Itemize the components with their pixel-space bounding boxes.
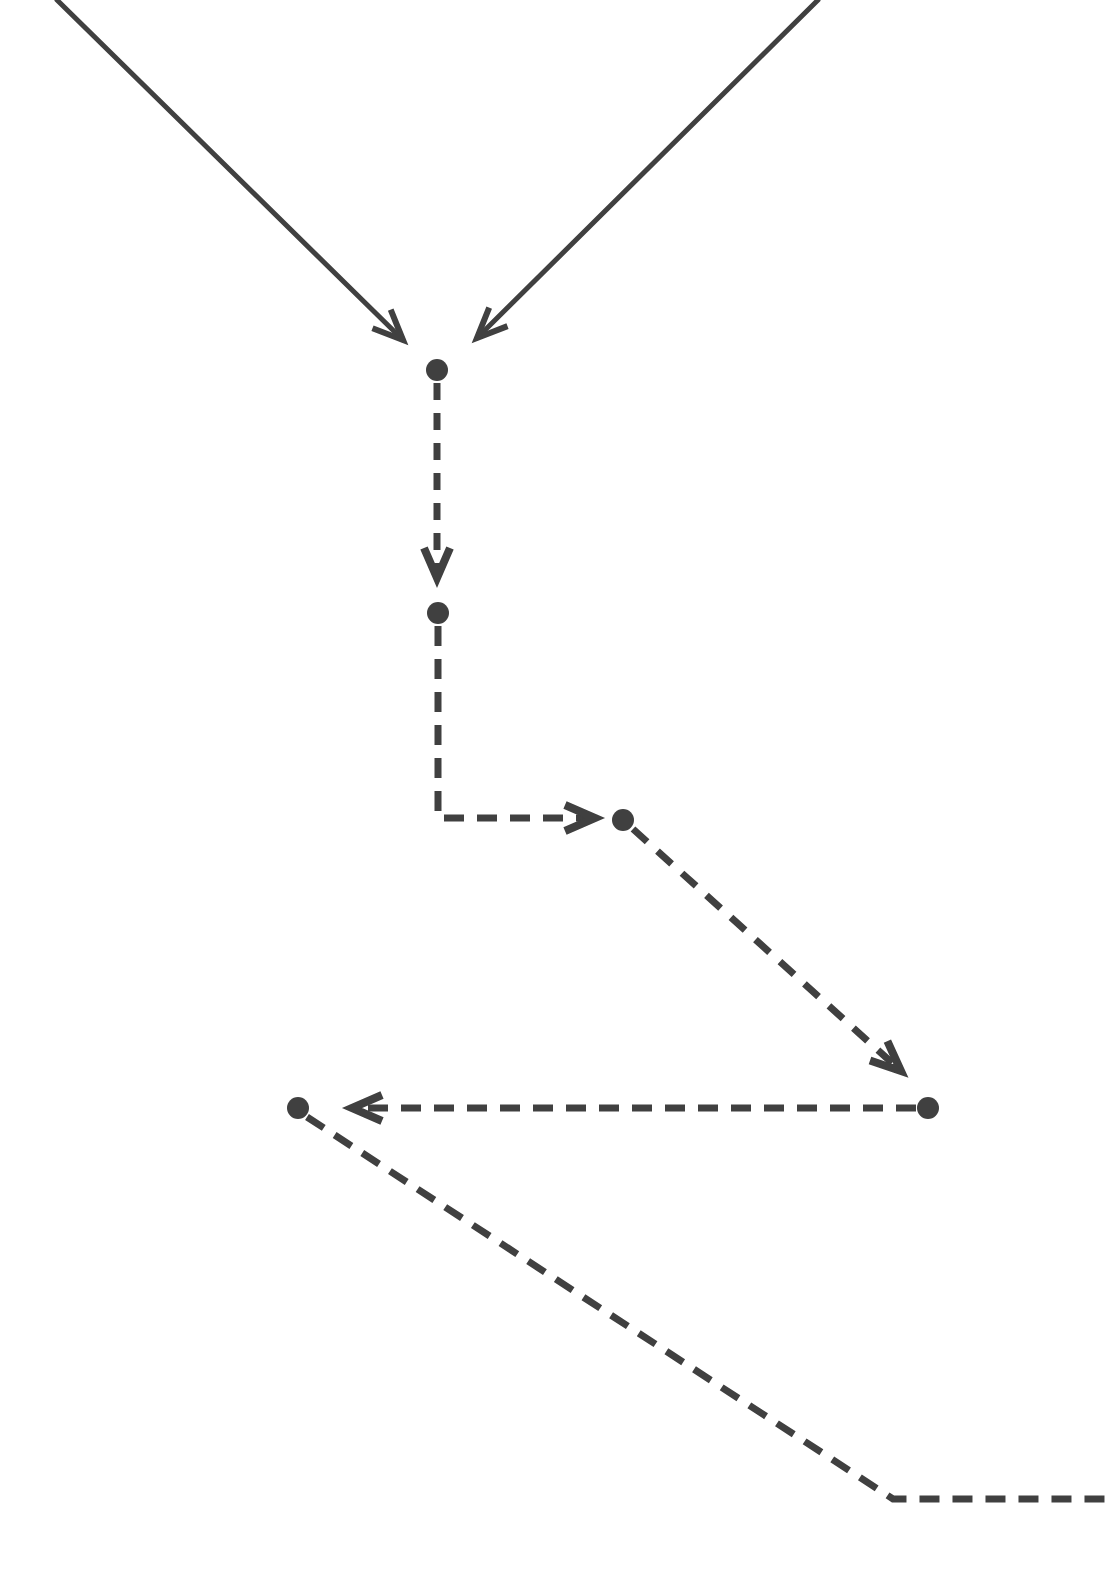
- edge-e5-dashed: [633, 829, 901, 1071]
- node-dot-n4[interactable]: [917, 1097, 939, 1119]
- flow-diagram: [0, 0, 1109, 1595]
- node-layer: [287, 359, 939, 1119]
- node-dot-n5[interactable]: [287, 1097, 309, 1119]
- node-dot-n1[interactable]: [426, 359, 448, 381]
- diagram-canvas: [0, 0, 1109, 1595]
- edge-e1-solid: [57, 0, 403, 340]
- edge-e4-dashed: [438, 626, 595, 818]
- node-dot-n2[interactable]: [427, 602, 449, 624]
- node-dot-n3[interactable]: [612, 809, 634, 831]
- edge-e7-dashed: [307, 1117, 1109, 1499]
- edge-layer: [57, 0, 1109, 1499]
- edge-e2-solid: [477, 0, 818, 338]
